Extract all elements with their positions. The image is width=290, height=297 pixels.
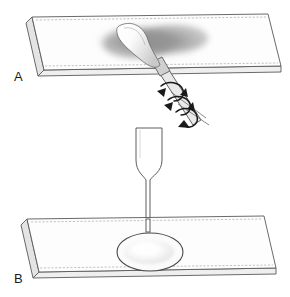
smear-ellipse-right	[144, 25, 208, 51]
panel-a-label: A	[14, 69, 23, 84]
panel-b: B	[14, 128, 276, 286]
liquid-drop	[117, 233, 183, 271]
rotation-arrow-1-head	[157, 88, 166, 97]
drop-highlight	[132, 243, 160, 255]
figure-container: A B	[0, 0, 290, 297]
panel-a: A	[14, 14, 281, 128]
pipette-tip	[146, 219, 150, 232]
rotation-arrow-2-head	[164, 102, 173, 111]
panel-b-label: B	[14, 271, 23, 286]
specimen-smear-illustration: A B	[0, 0, 290, 297]
rotation-arrow-3-head	[178, 120, 190, 128]
